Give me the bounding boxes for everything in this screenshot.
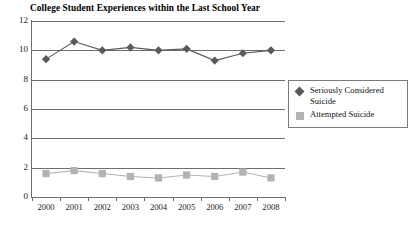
x-tick-mark bbox=[32, 197, 33, 201]
data-point-square bbox=[127, 173, 134, 180]
data-point-square bbox=[211, 173, 218, 180]
data-point-square bbox=[183, 171, 190, 178]
square-marker-icon bbox=[294, 109, 308, 122]
data-point-square bbox=[99, 170, 106, 177]
data-point-square bbox=[42, 170, 49, 177]
data-point-square bbox=[267, 174, 274, 181]
data-point-diamond bbox=[154, 46, 162, 54]
x-tick-mark bbox=[144, 197, 145, 201]
data-point-square bbox=[71, 167, 78, 174]
x-tick-mark bbox=[88, 197, 89, 201]
x-tick-mark bbox=[60, 197, 61, 201]
data-point-diamond bbox=[42, 55, 50, 63]
data-point-diamond bbox=[211, 57, 219, 65]
data-point-square bbox=[239, 168, 246, 175]
x-tick-mark bbox=[257, 197, 258, 201]
diamond-marker-icon bbox=[294, 85, 308, 98]
x-tick-mark bbox=[116, 197, 117, 201]
x-tick-mark bbox=[285, 197, 286, 201]
data-point-diamond bbox=[239, 49, 247, 57]
data-point-diamond bbox=[98, 46, 106, 54]
x-tick-label: 2008 bbox=[254, 202, 288, 212]
legend-label: Attempted Suicide bbox=[308, 109, 406, 120]
legend-label: Seriously Considered Suicide bbox=[308, 85, 406, 106]
data-point-diamond bbox=[267, 46, 275, 54]
x-tick-mark bbox=[173, 197, 174, 201]
data-point-square bbox=[155, 174, 162, 181]
legend-item-attempted-suicide[interactable]: Attempted Suicide bbox=[294, 109, 406, 122]
chart-legend: Seriously Considered Suicide Attempted S… bbox=[288, 80, 408, 128]
data-point-diamond bbox=[126, 43, 134, 51]
legend-item-seriously-considered-suicide[interactable]: Seriously Considered Suicide bbox=[294, 85, 406, 106]
data-point-diamond bbox=[183, 45, 191, 53]
data-point-diamond bbox=[70, 37, 78, 45]
chart-figure: College Student Experiences within the L… bbox=[0, 0, 413, 227]
x-tick-mark bbox=[229, 197, 230, 201]
x-tick-mark bbox=[201, 197, 202, 201]
